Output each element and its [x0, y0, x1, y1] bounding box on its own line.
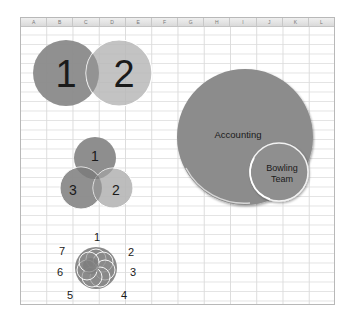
venn3-label-3: 3 — [69, 182, 77, 198]
bowling-team-label-line1: Bowling — [266, 163, 298, 173]
bowling-team-label-line2: Team — [271, 174, 293, 184]
flower-label-1: 1 — [94, 231, 100, 243]
venn-label-2: 2 — [113, 53, 134, 95]
nested-venn[interactable]: Accounting Bowling Team — [177, 69, 313, 205]
venn-diagram-three[interactable]: 1 3 2 — [60, 137, 133, 209]
flower-label-5: 5 — [67, 289, 73, 301]
flower-diagram[interactable]: 1 2 3 4 5 6 7 — [57, 231, 136, 301]
flower-label-7: 7 — [59, 245, 65, 257]
flower-label-3: 3 — [130, 266, 136, 278]
venn3-label-2: 2 — [112, 182, 120, 198]
flower-label-2: 2 — [128, 246, 134, 258]
flower-label-4: 4 — [121, 289, 127, 301]
accounting-label: Accounting — [214, 129, 261, 140]
venn-label-1: 1 — [55, 53, 76, 95]
venn3-label-1: 1 — [91, 148, 99, 164]
flower-label-6: 6 — [57, 266, 63, 278]
flower-center — [83, 258, 99, 274]
smartart-canvas: 1 2 Accounting Bowling Team 1 3 2 — [0, 0, 354, 321]
venn-diagram-two[interactable]: 1 2 — [33, 40, 152, 106]
